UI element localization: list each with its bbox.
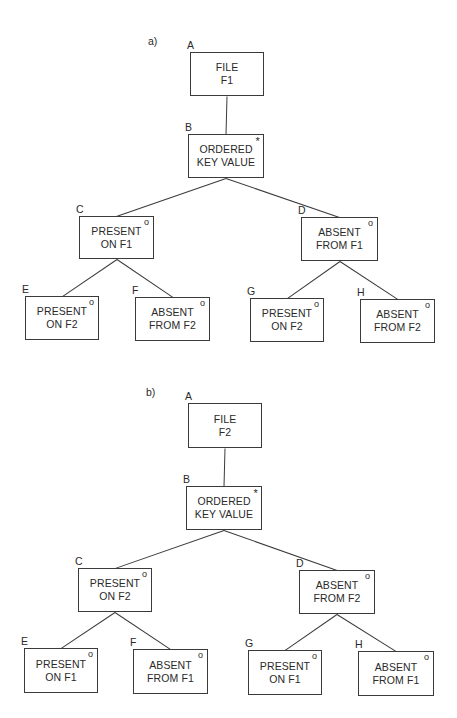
node-text-line: FROM F2 bbox=[314, 592, 361, 605]
node-e: PRESENTON F2o bbox=[25, 296, 99, 340]
node-a: FILEF2 bbox=[188, 403, 262, 448]
node-text-line: ABSENT bbox=[316, 579, 359, 592]
node-text-line: PRESENT bbox=[91, 225, 141, 238]
node-text-line: KEY VALUE bbox=[195, 508, 253, 521]
node-text-line: FROM F2 bbox=[149, 319, 196, 332]
node-g: PRESENTON F1o bbox=[248, 650, 322, 695]
node-letter: H bbox=[355, 639, 363, 650]
node-text-line: ABSENT bbox=[375, 661, 418, 674]
circle-marker-icon: o bbox=[368, 219, 373, 228]
asterisk-marker-icon: * bbox=[254, 489, 258, 498]
edge-d-h bbox=[339, 261, 398, 300]
circle-marker-icon: o bbox=[142, 570, 147, 579]
node-letter: A bbox=[185, 391, 192, 402]
node-text-line: ABSENT bbox=[149, 659, 192, 672]
node-f: ABSENTFROM F2o bbox=[135, 297, 210, 341]
node-text-line: FILE bbox=[216, 61, 239, 74]
circle-marker-icon: o bbox=[200, 299, 205, 308]
edge-a-b bbox=[226, 96, 228, 134]
edge-a-b bbox=[224, 448, 226, 486]
node-text-line: ON F1 bbox=[269, 673, 300, 686]
node-letter: D bbox=[296, 558, 304, 569]
node-text-line: F1 bbox=[221, 74, 233, 87]
node-h: ABSENTFROM F1o bbox=[358, 651, 434, 696]
node-d: ABSENTFROM F1o bbox=[301, 217, 378, 261]
node-letter: G bbox=[245, 638, 253, 649]
circle-marker-icon: o bbox=[144, 218, 149, 227]
circle-marker-icon: o bbox=[198, 651, 203, 660]
node-text-line: ABSENT bbox=[151, 306, 194, 319]
node-letter: F bbox=[132, 285, 138, 296]
node-text-line: PRESENT bbox=[262, 307, 312, 320]
edge-c-e bbox=[61, 612, 116, 649]
node-letter: E bbox=[21, 636, 28, 647]
node-text-line: FROM F1 bbox=[316, 239, 363, 252]
edge-b-c bbox=[116, 178, 226, 217]
node-a: FILEF1 bbox=[190, 52, 264, 96]
node-letter: C bbox=[76, 204, 84, 215]
node-letter: B bbox=[185, 122, 192, 133]
node-d: ABSENTFROM F2o bbox=[299, 570, 375, 614]
node-text-line: ABSENT bbox=[318, 226, 361, 239]
node-text-line: ON F2 bbox=[99, 590, 130, 603]
edge-b-d bbox=[224, 530, 337, 571]
node-text-line: FILE bbox=[214, 413, 237, 426]
panel-label: a) bbox=[148, 36, 157, 47]
node-text-line: ON F2 bbox=[271, 320, 302, 333]
edge-c-f bbox=[115, 612, 171, 650]
asterisk-marker-icon: * bbox=[256, 137, 260, 146]
node-letter: G bbox=[247, 286, 255, 297]
node-letter: D bbox=[298, 205, 306, 216]
edge-d-g bbox=[285, 614, 338, 651]
edge-b-c bbox=[115, 530, 224, 569]
edge-d-g bbox=[287, 261, 340, 299]
edge-d-h bbox=[337, 614, 397, 652]
node-text-line: ORDERED bbox=[199, 143, 252, 156]
circle-marker-icon: o bbox=[365, 572, 370, 581]
node-text-line: FROM F1 bbox=[373, 674, 420, 687]
node-text-line: PRESENT bbox=[90, 577, 140, 590]
node-h: ABSENTFROM F2o bbox=[360, 299, 435, 343]
circle-marker-icon: o bbox=[424, 653, 429, 662]
node-letter: E bbox=[22, 284, 29, 295]
node-text-line: ON F1 bbox=[45, 671, 76, 684]
node-text-line: ON F2 bbox=[46, 318, 77, 331]
node-letter: F bbox=[130, 637, 136, 648]
node-letter: C bbox=[75, 556, 83, 567]
node-text-line: ORDERED bbox=[197, 495, 250, 508]
node-f: ABSENTFROM F1o bbox=[133, 649, 208, 694]
node-g: PRESENTON F2o bbox=[250, 298, 324, 342]
circle-marker-icon: o bbox=[425, 301, 430, 310]
node-text-line: ON F1 bbox=[101, 238, 132, 251]
node-text-line: PRESENT bbox=[260, 660, 310, 673]
node-c: PRESENTON F1o bbox=[79, 216, 154, 259]
node-b: ORDEREDKEY VALUE* bbox=[188, 134, 264, 178]
node-text-line: PRESENT bbox=[36, 658, 86, 671]
node-b: ORDEREDKEY VALUE* bbox=[186, 486, 262, 530]
circle-marker-icon: o bbox=[89, 298, 94, 307]
circle-marker-icon: o bbox=[88, 650, 93, 659]
edge-c-f bbox=[116, 259, 173, 298]
node-text-line: FROM F1 bbox=[147, 672, 194, 685]
node-text-line: F2 bbox=[219, 426, 231, 439]
edge-c-e bbox=[62, 259, 117, 297]
node-text-line: FROM F2 bbox=[374, 321, 421, 334]
node-text-line: KEY VALUE bbox=[197, 156, 255, 169]
panel-label: b) bbox=[146, 387, 155, 398]
node-letter: H bbox=[357, 287, 365, 298]
node-text-line: PRESENT bbox=[37, 305, 87, 318]
node-letter: B bbox=[183, 474, 190, 485]
node-e: PRESENTON F1o bbox=[24, 648, 98, 693]
circle-marker-icon: o bbox=[312, 652, 317, 661]
diagram-canvas: a)AFILEF1BORDEREDKEY VALUE*CPRESENTON F1… bbox=[0, 0, 457, 718]
edge-b-d bbox=[226, 178, 340, 218]
node-letter: A bbox=[187, 40, 194, 51]
node-c: PRESENTON F2o bbox=[78, 568, 152, 612]
circle-marker-icon: o bbox=[314, 300, 319, 309]
node-text-line: ABSENT bbox=[376, 308, 419, 321]
